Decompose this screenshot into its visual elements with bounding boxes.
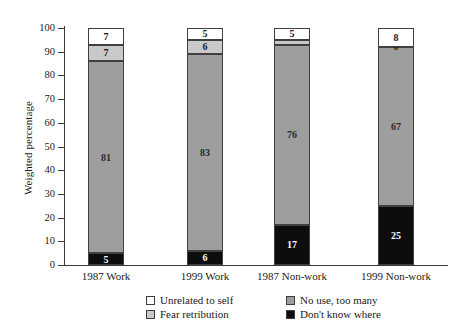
bar-segment-value: 6	[203, 41, 208, 52]
bar-segment-value: 8	[394, 32, 399, 43]
legend-item: Fear retribution	[146, 308, 286, 320]
x-axis-label: 1999 Non-work	[341, 270, 451, 282]
bar-segment: 5	[187, 28, 223, 40]
bar-segment: 8	[378, 28, 414, 47]
bar-segment-value: 7	[104, 31, 109, 42]
y-axis-tick-label: 70	[15, 94, 55, 104]
y-axis-tick-label: 100	[15, 23, 55, 33]
bar-segment-value: 76	[287, 129, 297, 140]
x-axis-line	[64, 265, 448, 266]
y-axis-tick-label: 80	[15, 70, 55, 80]
bar-segment	[274, 40, 310, 45]
bar-segment: 83	[187, 54, 223, 251]
bar-segment-value: 5	[203, 28, 208, 39]
legend-label: Unrelated to self	[160, 294, 233, 306]
legend-swatch	[286, 310, 295, 319]
y-axis-tick-label: 40	[15, 165, 55, 175]
bar-group: 177625	[274, 28, 310, 265]
bar-segment-value: 67	[391, 121, 401, 132]
y-axis-tick-label: 10	[15, 236, 55, 246]
bar-segment-value: 6	[203, 252, 208, 263]
legend-label: Don't know where	[300, 308, 381, 320]
x-axis-label: 1987 Non-work	[237, 270, 347, 282]
bar-segment: 6	[187, 251, 223, 265]
bar-segment-value: 83	[200, 147, 210, 158]
y-axis-tick-label: 20	[15, 213, 55, 223]
bar-segment: 5	[88, 253, 124, 265]
y-axis-tick-label: 60	[15, 118, 55, 128]
y-axis-tick-label: 90	[15, 47, 55, 57]
bar-segment: 7	[88, 28, 124, 45]
bar-segment: 17	[274, 225, 310, 265]
legend-label: No use, too many	[300, 294, 378, 306]
bar-segment: 76	[274, 45, 310, 225]
bar-group: 68365	[187, 28, 223, 265]
legend-swatch	[286, 296, 295, 305]
bar-segment-value: 25	[391, 230, 401, 241]
legend-item: No use, too many	[286, 294, 436, 306]
y-axis-tick-label: 30	[15, 189, 55, 199]
bar-segment: 7	[88, 45, 124, 62]
bar-segment: 81	[88, 61, 124, 253]
bar-segment-value: 5	[290, 28, 295, 39]
x-axis-label: 1987 Work	[51, 270, 161, 282]
stacked-bar-chart: Weighted percentage 10090807060504030201…	[0, 0, 457, 330]
bar-segment-value: 17	[287, 239, 297, 250]
legend-swatch	[146, 296, 155, 305]
legend-item: Unrelated to self	[146, 294, 286, 306]
bar-segment-value: 81	[101, 152, 111, 163]
y-axis-tick	[58, 265, 64, 266]
bar-segment-value: 7	[104, 47, 109, 58]
y-axis-tick-label: 0	[15, 260, 55, 270]
legend-item: Don't know where	[286, 308, 436, 320]
bar-segment: 6	[187, 40, 223, 54]
bar-segment: 67	[378, 47, 414, 206]
y-axis-tick-label: 50	[15, 142, 55, 152]
plot-area: 5817768365177625256708	[64, 28, 444, 265]
chart-legend: Unrelated to selfNo use, too manyFear re…	[146, 293, 436, 321]
bar-group: 58177	[88, 28, 124, 265]
bar-segment-value: 5	[104, 254, 109, 265]
bar-group: 256708	[378, 28, 414, 265]
legend-swatch	[146, 310, 155, 319]
legend-label: Fear retribution	[160, 308, 229, 320]
bar-segment: 25	[378, 206, 414, 265]
bar-segment: 5	[274, 28, 310, 40]
